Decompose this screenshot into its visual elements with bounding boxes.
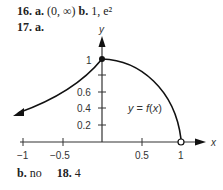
curve-right bbox=[102, 59, 181, 139]
part-b-label: b. bbox=[17, 166, 27, 180]
curve-label: y = f(x) bbox=[127, 102, 162, 114]
y-tick-02: 0.2 bbox=[77, 120, 91, 131]
closed-point bbox=[99, 56, 105, 62]
graph: x y −1 −0.5 0.5 1 1 0.6 0.4 0.2 y = f(x) bbox=[0, 0, 223, 190]
x-axis-label: x bbox=[210, 137, 217, 148]
x-tick-neg1: −1 bbox=[17, 150, 29, 161]
answer-17b-18: b. no 18. 4 bbox=[17, 166, 81, 181]
x-axis-arrow-icon bbox=[195, 139, 206, 146]
y-tick-04: 0.4 bbox=[77, 103, 91, 114]
y-axis-label: y bbox=[98, 24, 105, 35]
x-tick-1: 1 bbox=[178, 150, 184, 161]
open-point bbox=[178, 139, 184, 145]
question-number: 18. bbox=[57, 166, 72, 180]
answer-value: 4 bbox=[75, 166, 81, 180]
part-b-value: no bbox=[30, 166, 42, 180]
x-tick-neg05: −0.5 bbox=[50, 150, 70, 161]
curve-arrow-icon bbox=[13, 108, 24, 116]
y-axis-arrow-icon bbox=[99, 36, 106, 47]
y-tick-06: 0.6 bbox=[77, 87, 91, 98]
x-tick-05: 0.5 bbox=[135, 150, 149, 161]
y-tick-1: 1 bbox=[86, 55, 92, 66]
